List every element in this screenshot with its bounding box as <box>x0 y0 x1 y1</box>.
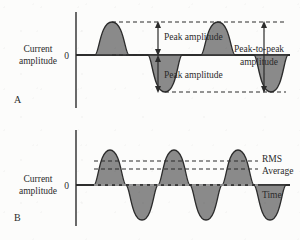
panel-a-letter: A <box>14 94 22 105</box>
panel-b-y-axis-label-line2: amplitude <box>19 186 57 196</box>
panel-a-peak-negative-label: Peak amplitude <box>164 70 223 80</box>
panel-b-rms-label: RMS <box>262 154 282 164</box>
panel-b: Current amplitude 0 RMS Average Time B <box>14 130 293 226</box>
panel-a-peak-positive-arrow <box>155 21 161 56</box>
panel-a-peak-positive-label: Peak amplitude <box>164 32 223 42</box>
panel-b-y-axis-label-line1: Current <box>23 174 52 184</box>
waveform-figure: Current amplitude 0 Peak amplitude Peak … <box>0 0 300 240</box>
panel-a: Current amplitude 0 Peak amplitude Peak … <box>14 12 290 108</box>
panel-b-letter: B <box>14 212 21 223</box>
panel-b-zero-label: 0 <box>64 181 69 191</box>
panel-a-zero-label: 0 <box>64 51 69 61</box>
panel-a-y-axis-label-line2: amplitude <box>19 56 57 66</box>
panel-a-peak-to-peak-label-line1: Peak-to-peak <box>234 44 284 54</box>
panel-b-average-label: Average <box>262 166 293 176</box>
panel-a-y-axis-label-line1: Current <box>23 44 52 54</box>
panel-a-peak-to-peak-label-line2: amplitude <box>240 57 278 67</box>
panel-b-time-label: Time <box>262 190 282 200</box>
